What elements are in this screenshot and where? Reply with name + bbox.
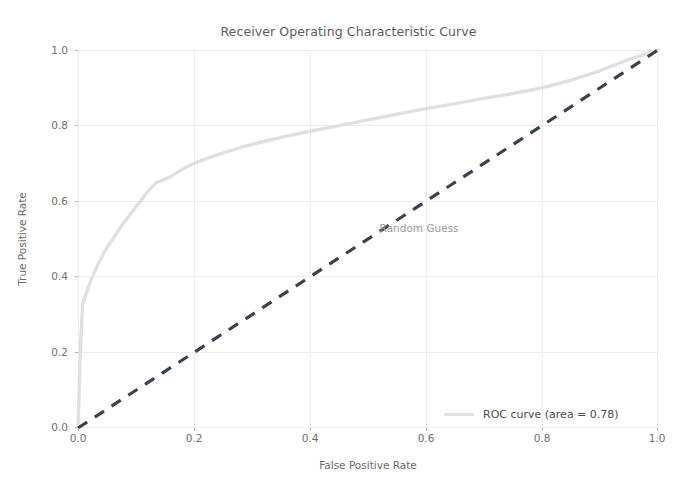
random-guess-line	[78, 50, 658, 428]
x-tick-mark	[310, 428, 311, 431]
y-tick-mark	[75, 276, 78, 277]
x-axis-label: False Positive Rate	[78, 459, 658, 471]
x-tick-label: 0.8	[534, 432, 551, 444]
x-tick-mark	[78, 428, 79, 431]
chart-title: Receiver Operating Characteristic Curve	[0, 24, 697, 39]
y-tick-label: 0.2	[51, 346, 68, 358]
y-tick-label: 0.4	[51, 270, 68, 282]
x-tick-mark	[194, 428, 195, 431]
y-tick-label: 0.8	[51, 119, 68, 131]
y-tick-mark	[75, 125, 78, 126]
y-tick-mark	[75, 427, 78, 428]
x-tick-label: 0.2	[186, 432, 203, 444]
y-tick-label: 1.0	[51, 44, 68, 56]
x-tick-mark	[657, 428, 658, 431]
x-tick-label: 1.0	[649, 432, 666, 444]
chart-lines	[78, 50, 658, 428]
chart-legend: ROC curve (area = 0.78)	[444, 408, 619, 421]
y-tick-mark	[75, 201, 78, 202]
roc-curve-legend-swatch-icon	[444, 413, 474, 416]
plot-area: 0.0 0.2 0.4 0.6 0.8 1.0 0.0 0.2 0.4 0.6 …	[78, 50, 658, 428]
y-tick-mark	[75, 352, 78, 353]
x-tick-label: 0.4	[302, 432, 319, 444]
x-tick-label: 0.6	[418, 432, 435, 444]
x-tick-mark	[426, 428, 427, 431]
random-guess-annotation: Random Guess	[380, 222, 459, 234]
y-tick-label: 0.0	[51, 421, 68, 433]
roc-chart-figure: Receiver Operating Characteristic Curve	[0, 0, 697, 504]
y-tick-label: 0.6	[51, 195, 68, 207]
x-tick-label: 0.0	[70, 432, 87, 444]
y-axis-label: True Positive Rate	[16, 192, 28, 286]
y-tick-mark	[75, 50, 78, 51]
roc-curve-legend-label: ROC curve (area = 0.78)	[483, 408, 619, 421]
x-tick-mark	[542, 428, 543, 431]
